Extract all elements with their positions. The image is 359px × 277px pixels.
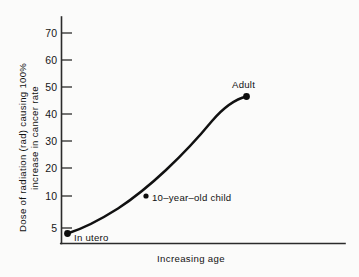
y-tick-label-40: 40 xyxy=(45,108,57,120)
y-tick-label-70: 70 xyxy=(45,27,57,39)
chart-figure: 70 60 50 40 30 20 10 5 Dose of radiation… xyxy=(0,0,359,277)
annotation-in-utero: In utero xyxy=(74,232,109,243)
annotation-ten-year-old: 10–year–old child xyxy=(152,192,231,203)
y-axis-title-line2: increase in cancer rate xyxy=(29,86,40,190)
y-tick-label-10: 10 xyxy=(45,190,57,202)
y-axis-title-line1: Dose of radiation (rad) causing 100% xyxy=(17,63,28,232)
data-curve xyxy=(68,97,247,234)
y-tick-label-50: 50 xyxy=(45,81,57,93)
annotation-adult: Adult xyxy=(232,79,255,90)
data-point-adult xyxy=(243,93,250,100)
y-tick-label-5: 5 xyxy=(51,222,57,234)
y-tick-label-30: 30 xyxy=(45,135,57,147)
x-axis-title: Increasing age xyxy=(157,253,225,264)
y-tick-label-60: 60 xyxy=(45,54,57,66)
data-point-in-utero xyxy=(64,230,71,237)
y-tick-label-20: 20 xyxy=(45,162,57,174)
data-point-ten-year-old xyxy=(143,193,148,198)
chart-canvas: 70 60 50 40 30 20 10 5 Dose of radiation… xyxy=(0,0,359,277)
